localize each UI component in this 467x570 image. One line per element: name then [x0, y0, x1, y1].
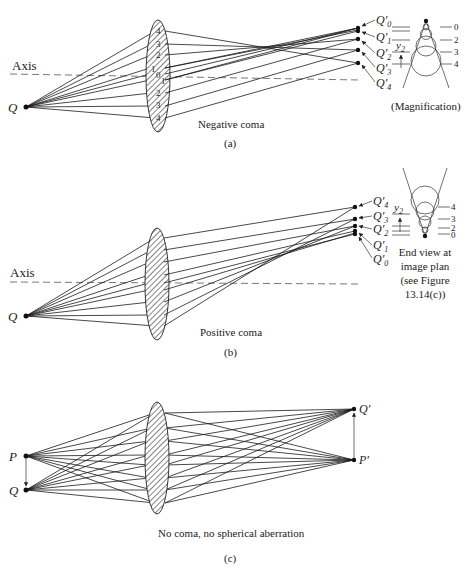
- panel-letter-b: (b): [224, 346, 237, 359]
- svg-text:Q′4: Q′4: [373, 194, 388, 210]
- image-points: [356, 26, 360, 65]
- object-label: Q: [8, 309, 18, 324]
- inset-caption: (Magnification): [391, 100, 461, 113]
- object-bottom-label: Q: [9, 483, 19, 498]
- svg-text:1: 1: [151, 64, 156, 74]
- svg-text:3: 3: [454, 47, 459, 57]
- panel-b: Axis Q: [8, 168, 456, 359]
- svg-text:1: 1: [161, 76, 166, 86]
- image-bottom-label: P': [358, 453, 369, 467]
- svg-text:Q′2: Q′2: [376, 46, 391, 62]
- svg-text:(see Figure: (see Figure: [400, 274, 449, 287]
- image-top-label: Q': [359, 402, 371, 416]
- svg-text:2: 2: [156, 50, 161, 60]
- panel-a: Axis 4 3 2 1 0 1 2 3 4: [8, 13, 461, 150]
- object-point-p: [24, 454, 29, 459]
- svg-text:3: 3: [156, 39, 161, 49]
- image-labels: Q′4 Q′3 Q′2 Q′1 Q′0: [359, 194, 388, 268]
- svg-text:0: 0: [454, 22, 459, 32]
- object-top-label: P: [8, 449, 17, 464]
- image-point-q: [352, 407, 356, 411]
- object-label: Q: [8, 100, 18, 115]
- lens: [145, 228, 169, 340]
- refracted-rays: [164, 207, 355, 326]
- svg-text:2: 2: [454, 35, 459, 45]
- svg-text:3: 3: [156, 100, 161, 110]
- caption-positive-coma: Positive coma: [200, 326, 262, 338]
- svg-text:Q′0: Q′0: [376, 13, 391, 29]
- svg-text:2: 2: [156, 88, 161, 98]
- coma-diagram: Axis 4 3 2 1 0 1 2 3 4: [0, 0, 467, 570]
- svg-text:4: 4: [156, 113, 161, 123]
- svg-text:Q′1: Q′1: [376, 30, 391, 46]
- image-point-p: [352, 458, 356, 462]
- svg-text:Q′3: Q′3: [376, 61, 391, 77]
- image-labels: Q′0 Q′1 Q′2 Q′3 Q′4: [362, 13, 391, 92]
- image-points: [353, 205, 357, 236]
- svg-text:4: 4: [454, 59, 459, 69]
- caption-no-coma: No coma, no spherical aberration: [158, 527, 305, 539]
- refracted-rays: [165, 28, 358, 118]
- svg-text:4: 4: [451, 202, 456, 212]
- svg-text:0: 0: [451, 230, 456, 240]
- lens: [145, 402, 169, 514]
- svg-text:Q′0: Q′0: [373, 252, 388, 268]
- svg-text:Q′4: Q′4: [376, 76, 391, 92]
- axis-label: Axis: [12, 58, 37, 73]
- object-point-q: [24, 488, 29, 493]
- svg-text:image plan: image plan: [401, 260, 450, 272]
- panel-c: P Q Q' P' No coma, no spherical aberrati…: [8, 402, 371, 565]
- end-view-inset: 4 3 2 0 y2 End view at image plan (see F…: [392, 168, 456, 301]
- object-point-q: [24, 314, 29, 319]
- svg-text:13.14(c)): 13.14(c)): [405, 288, 446, 301]
- caption-negative-coma: Negative coma: [198, 118, 264, 130]
- panel-letter-c: (c): [224, 552, 237, 565]
- svg-text:4: 4: [156, 26, 161, 36]
- panel-letter-a: (a): [224, 137, 237, 150]
- svg-text:End view at: End view at: [399, 246, 452, 258]
- axis-label: Axis: [10, 265, 35, 280]
- object-point-q: [24, 105, 29, 110]
- magnification-inset: 0 2 3 4 y2 (Magnification): [391, 19, 461, 113]
